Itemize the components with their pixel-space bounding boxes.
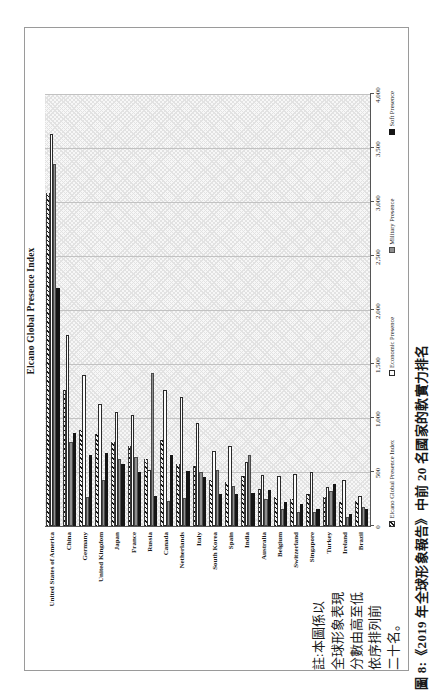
bar-canada-series-3 xyxy=(170,455,173,526)
category-label: Belgium xyxy=(276,532,285,642)
category-label: Germany xyxy=(81,532,90,642)
axis-tick-label: 3,000 xyxy=(374,183,382,223)
category-label: India xyxy=(243,532,252,642)
axis-tick-label: 1,500 xyxy=(374,345,382,385)
plot-area xyxy=(45,94,371,527)
bar-singapore-series-3 xyxy=(316,509,319,526)
bar-ireland-series-3 xyxy=(349,514,352,526)
legend-item: Economic Presence xyxy=(388,317,395,377)
axis-tick-label: 1,000 xyxy=(374,399,382,439)
category-label: China xyxy=(65,532,74,642)
bar-spain-series-3 xyxy=(235,494,238,526)
note-line: 依序排列前 xyxy=(366,592,385,670)
legend-label: Economic Presence xyxy=(388,317,395,368)
note-line: 全球形象表現 xyxy=(329,592,348,670)
category-label: France xyxy=(130,532,139,642)
figure-note: 註:本圖係以 全球形象表現 分數由高至低 依序排列前 二十名。 xyxy=(310,592,404,670)
legend-item: Elcano Global Presence Index xyxy=(388,440,395,527)
axis-tick-label: 0 xyxy=(374,507,382,547)
legend-label: Military Presence xyxy=(388,199,395,245)
bar-brazil-series-3 xyxy=(365,509,368,526)
legend: Elcano Global Presence IndexEconomic Pre… xyxy=(388,91,395,527)
category-label: Canada xyxy=(162,532,171,642)
bar-united-states-of-america-series-3 xyxy=(56,288,59,526)
category-label: Switzerland xyxy=(292,532,301,642)
legend-swatch-icon xyxy=(389,129,395,135)
category-label: South Korea xyxy=(211,532,220,642)
rotated-figure: Elcano Global Presence Index United Stat… xyxy=(0,0,432,700)
legend-swatch-icon xyxy=(389,370,395,376)
category-label: Russia xyxy=(146,532,155,642)
bar-italy-series-3 xyxy=(203,477,206,526)
note-line: 二十名。 xyxy=(385,592,404,670)
bar-japan-series-3 xyxy=(121,464,124,526)
category-label: Australia xyxy=(260,532,269,642)
legend-item: Military Presence xyxy=(388,199,395,254)
bar-france-series-3 xyxy=(138,472,141,526)
bar-india-series-3 xyxy=(251,493,254,526)
legend-swatch-icon xyxy=(389,247,395,253)
bar-belgium-series-3 xyxy=(284,502,287,526)
bar-united-kingdom-series-3 xyxy=(105,453,108,526)
category-label: Japan xyxy=(113,532,122,642)
scanned-page: Elcano Global Presence Index United Stat… xyxy=(0,0,432,700)
legend-label: Soft Presence xyxy=(388,91,395,127)
figure-caption: 圖 8:《2019 年全球形象報告》中前 20 名國家的軟實力排名 xyxy=(411,20,430,690)
legend-swatch-icon xyxy=(389,521,395,527)
bar-china-series-3 xyxy=(73,433,76,526)
note-line: 分數由高至低 xyxy=(348,592,367,670)
category-label: Italy xyxy=(195,532,204,642)
category-label: United States of America xyxy=(48,532,57,642)
category-label: Spain xyxy=(227,532,236,642)
category-label: Netherlands xyxy=(178,532,187,642)
bar-turkey-series-3 xyxy=(333,484,336,526)
axis-tick-label: 4,000 xyxy=(374,75,382,115)
bar-netherlands-series-3 xyxy=(186,471,189,526)
axis-tick-label: 3,500 xyxy=(374,129,382,169)
bar-germany-series-3 xyxy=(89,455,92,526)
bar-switzerland-series-3 xyxy=(300,504,303,526)
axis-tick-label: 500 xyxy=(374,453,382,493)
note-line: 註:本圖係以 xyxy=(310,592,329,670)
bar-south-korea-series-3 xyxy=(219,494,222,526)
axis-tick-label: 2,000 xyxy=(374,291,382,331)
chart-title: Elcano Global Presence Index xyxy=(26,95,36,527)
bar-russia-series-3 xyxy=(154,496,157,526)
legend-item: Soft Presence xyxy=(388,91,395,135)
legend-label: Elcano Global Presence Index xyxy=(388,440,395,519)
axis-tick-label: 2,500 xyxy=(374,237,382,277)
category-label: United Kingdom xyxy=(97,532,106,642)
bar-australia-series-3 xyxy=(268,490,271,526)
